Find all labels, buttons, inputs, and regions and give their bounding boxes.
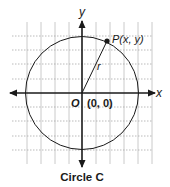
diagram-title: Circle C bbox=[60, 171, 103, 183]
radius-segment bbox=[82, 41, 107, 93]
origin-coords: (0, 0) bbox=[87, 97, 113, 109]
origin-label: O bbox=[71, 97, 80, 109]
circle-diagram: y x P(x, y) r O (0, 0) Circle C bbox=[0, 0, 170, 187]
x-axis-label: x bbox=[155, 86, 163, 100]
point-p-label: P(x, y) bbox=[112, 33, 144, 45]
y-axis-label: y bbox=[78, 5, 86, 19]
radius-label: r bbox=[97, 60, 102, 72]
point-p bbox=[104, 38, 109, 43]
